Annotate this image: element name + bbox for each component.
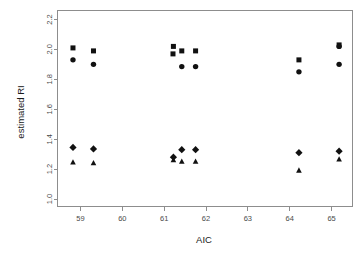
data-point-triangle: [179, 158, 185, 163]
data-point-diamond: [90, 145, 97, 152]
x-tick-label: 65: [327, 214, 335, 223]
y-tick-label: 1.0: [45, 194, 54, 204]
y-tick-label: 1.8: [45, 74, 54, 84]
y-tick-label: 1.6: [45, 104, 54, 114]
plot-canvas: 59606162636465 1.01.21.41.61.82.02.2 AIC…: [0, 0, 363, 257]
scatter-plot-figure: 59606162636465 1.01.21.41.61.82.02.2 AIC…: [0, 0, 363, 257]
data-point-square: [170, 51, 175, 56]
data-point-diamond: [178, 146, 185, 153]
data-point-circle: [336, 44, 341, 49]
x-tick-label: 63: [244, 214, 252, 223]
x-axis-title: AIC: [196, 234, 212, 245]
y-tick-label: 2.0: [45, 44, 54, 54]
y-axis-title: estimated RI: [15, 85, 26, 138]
data-point-triangle: [336, 156, 342, 161]
x-tick-label: 61: [160, 214, 168, 223]
data-point-diamond: [295, 149, 302, 156]
data-point-square: [70, 45, 75, 50]
data-point-circle: [70, 57, 75, 62]
data-point-circle: [91, 62, 96, 67]
data-point-diamond: [336, 148, 343, 155]
x-tick-label: 59: [76, 214, 84, 223]
data-markers: [69, 42, 342, 172]
y-tick-label: 1.2: [45, 164, 54, 174]
data-point-diamond: [69, 144, 76, 151]
data-point-triangle: [91, 160, 97, 165]
x-tick-label: 60: [118, 214, 126, 223]
data-point-triangle: [70, 159, 76, 164]
data-point-circle: [179, 64, 184, 69]
plot-frame: [58, 11, 353, 207]
data-point-triangle: [296, 167, 302, 172]
x-axis: 59606162636465: [76, 207, 335, 223]
y-axis: 1.01.21.41.61.82.02.2: [45, 14, 58, 204]
y-tick-label: 1.4: [45, 134, 54, 144]
data-point-square: [193, 48, 198, 53]
data-point-circle: [296, 69, 301, 74]
data-point-circle: [336, 62, 341, 67]
x-tick-label: 64: [286, 214, 294, 223]
data-point-triangle: [193, 158, 199, 163]
data-point-circle: [193, 64, 198, 69]
data-point-diamond: [192, 146, 199, 153]
y-tick-label: 2.2: [45, 14, 54, 24]
x-tick-label: 62: [202, 214, 210, 223]
data-point-square: [91, 48, 96, 53]
data-point-square: [171, 44, 176, 49]
data-point-square: [179, 48, 184, 53]
data-point-square: [296, 57, 301, 62]
